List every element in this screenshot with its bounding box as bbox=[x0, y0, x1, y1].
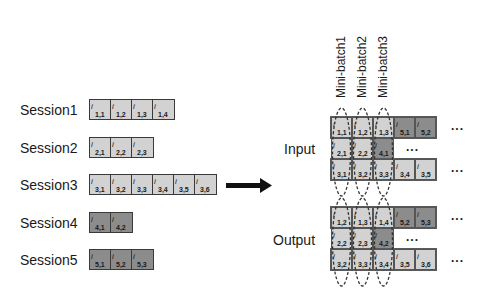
item-symbol: i bbox=[396, 120, 398, 129]
item-index: 2,2 bbox=[116, 149, 126, 156]
session-label: Session3 bbox=[20, 177, 78, 193]
item-symbol: i bbox=[112, 102, 114, 111]
item-index: 1,4 bbox=[158, 111, 168, 118]
item-symbol: i bbox=[417, 252, 419, 261]
item-cell: i1,3 bbox=[132, 100, 153, 119]
item-symbol: i bbox=[91, 252, 93, 261]
item-symbol: i bbox=[354, 252, 356, 261]
minibatch-label: Mini-batch3 bbox=[376, 36, 390, 98]
item-index: 1,3 bbox=[379, 129, 389, 136]
item-index: 3,6 bbox=[200, 186, 210, 193]
item-cell: i3,3 bbox=[373, 159, 394, 180]
item-symbol: i bbox=[333, 210, 335, 219]
item-cell: i3,4 bbox=[373, 249, 394, 270]
minibatch-label: Mini-batch2 bbox=[355, 36, 369, 98]
item-cell: i1,1 bbox=[90, 100, 111, 119]
item-index: 3,1 bbox=[337, 171, 347, 178]
item-symbol: i bbox=[175, 177, 177, 186]
item-cell: i3,6 bbox=[195, 175, 216, 194]
continuation-ellipsis: ... bbox=[406, 230, 419, 244]
item-index: 2,2 bbox=[358, 150, 368, 157]
item-symbol: i bbox=[133, 252, 135, 261]
item-cell: i3,4 bbox=[153, 175, 174, 194]
item-symbol: i bbox=[417, 162, 419, 171]
item-index: 5,3 bbox=[421, 219, 431, 226]
item-symbol: i bbox=[417, 210, 419, 219]
continuation-ellipsis: ... bbox=[451, 251, 464, 265]
item-cell: i4,2 bbox=[373, 228, 394, 249]
item-index: 5,3 bbox=[137, 261, 147, 268]
item-symbol: i bbox=[396, 210, 398, 219]
item-cell: i2,3 bbox=[132, 138, 153, 157]
item-cell: i3,3 bbox=[352, 249, 373, 270]
item-symbol: i bbox=[354, 210, 356, 219]
item-symbol: i bbox=[375, 252, 377, 261]
item-symbol: i bbox=[133, 140, 135, 149]
item-index: 4,1 bbox=[379, 150, 389, 157]
item-cell: i3,1 bbox=[90, 175, 111, 194]
batch-row: i1,1i1,2i1,3i5,1i5,2 bbox=[331, 117, 436, 138]
item-index: 3,5 bbox=[421, 171, 431, 178]
item-symbol: i bbox=[196, 177, 198, 186]
session-label: Session1 bbox=[20, 102, 78, 118]
item-index: 1,1 bbox=[95, 111, 105, 118]
item-symbol: i bbox=[396, 252, 398, 261]
item-cell: i4,2 bbox=[111, 213, 132, 232]
item-symbol: i bbox=[375, 141, 377, 150]
item-cell: i5,3 bbox=[132, 250, 153, 269]
item-cell: i5,2 bbox=[415, 117, 436, 138]
item-index: 4,2 bbox=[116, 224, 126, 231]
continuation-ellipsis: ... bbox=[451, 209, 464, 223]
item-index: 5,1 bbox=[95, 261, 105, 268]
item-cell: i5,2 bbox=[394, 207, 415, 228]
item-symbol: i bbox=[417, 120, 419, 129]
item-cell: i5,1 bbox=[90, 250, 111, 269]
session-row: i4,1i4,2 bbox=[89, 212, 133, 233]
session-row: i2,1i2,2i2,3 bbox=[89, 137, 154, 158]
item-cell: i2,1 bbox=[331, 138, 352, 159]
item-cell: i2,2 bbox=[331, 228, 352, 249]
item-symbol: i bbox=[354, 231, 356, 240]
item-cell: i1,3 bbox=[373, 117, 394, 138]
item-index: 3,5 bbox=[179, 186, 189, 193]
item-index: 2,2 bbox=[337, 240, 347, 247]
item-index: 1,3 bbox=[137, 111, 147, 118]
item-cell: i2,1 bbox=[90, 138, 111, 157]
item-cell: i1,2 bbox=[352, 117, 373, 138]
item-cell: i1,2 bbox=[331, 207, 352, 228]
item-cell: i1,2 bbox=[111, 100, 132, 119]
item-cell: i3,2 bbox=[352, 159, 373, 180]
item-cell: i3,5 bbox=[394, 249, 415, 270]
item-index: 2,3 bbox=[358, 240, 368, 247]
item-cell: i5,2 bbox=[111, 250, 132, 269]
item-symbol: i bbox=[333, 141, 335, 150]
item-cell: i3,3 bbox=[132, 175, 153, 194]
item-index: 3,5 bbox=[400, 261, 410, 268]
item-symbol: i bbox=[112, 140, 114, 149]
item-index: 2,1 bbox=[95, 149, 105, 156]
input-label: Input bbox=[284, 141, 315, 157]
batch-row: i1,2i1,3i1,4i5,2i5,3 bbox=[331, 207, 436, 228]
item-symbol: i bbox=[333, 162, 335, 171]
item-cell: i3,1 bbox=[331, 159, 352, 180]
session-row: i3,1i3,2i3,3i3,4i3,5i3,6 bbox=[89, 174, 217, 195]
item-symbol: i bbox=[91, 102, 93, 111]
item-cell: i2,2 bbox=[352, 138, 373, 159]
continuation-ellipsis: ... bbox=[451, 119, 464, 133]
item-index: 2,3 bbox=[137, 149, 147, 156]
item-index: 3,3 bbox=[358, 261, 368, 268]
item-index: 3,3 bbox=[379, 171, 389, 178]
item-index: 3,1 bbox=[95, 186, 105, 193]
item-symbol: i bbox=[112, 177, 114, 186]
item-cell: i3,2 bbox=[331, 249, 352, 270]
item-cell: i3,5 bbox=[174, 175, 195, 194]
item-cell: i2,2 bbox=[111, 138, 132, 157]
item-cell: i1,4 bbox=[153, 100, 174, 119]
item-symbol: i bbox=[375, 162, 377, 171]
item-cell: i1,4 bbox=[373, 207, 394, 228]
item-index: 1,2 bbox=[358, 129, 368, 136]
item-cell: i3,5 bbox=[415, 159, 436, 180]
batch-row: i3,2i3,3i3,4i3,5i3,6 bbox=[331, 249, 436, 270]
session-row: i1,1i1,2i1,3i1,4 bbox=[89, 99, 175, 120]
item-index: 2,1 bbox=[337, 150, 347, 157]
